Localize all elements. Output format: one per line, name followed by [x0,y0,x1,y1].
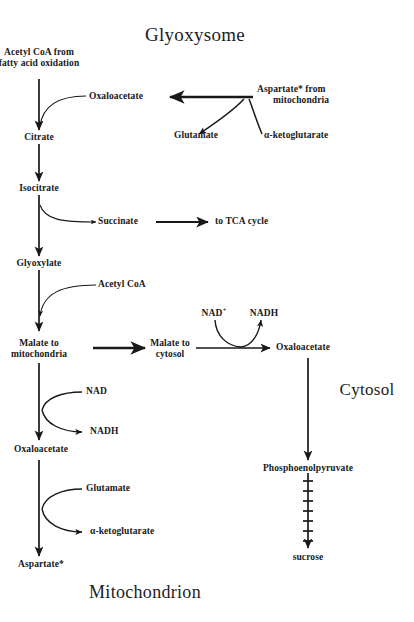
node-succinate: Succinate [98,216,138,227]
node-glyoxylate: Glyoxylate [0,258,85,269]
curve-nadplus-into-oxaloacetate [215,320,241,347]
node-malate-to-mitochondria-line1: Malate to [19,338,59,348]
curve-oxaloacetate-into-citrate [40,96,86,126]
node-citrate: Citrate [0,132,84,143]
curve-nadh-from-malate-oxidation [42,410,82,432]
node-glutamate-mitochondrion: Glutamate [86,483,130,494]
node-oxaloacetate-cytosol: Oxaloacetate [276,342,330,353]
node-ketoglutarate-glyoxysome: α-ketoglutarate [264,130,328,141]
node-malate-to-cytosol-line1: Malate to [150,338,190,348]
curve-acetylcoa-into-malate [40,285,96,316]
node-glutamate-glyoxysome: Glutamate [151,130,241,141]
node-sucrose: sucrose [273,552,343,563]
node-to-tca-cycle: to TCA cycle [215,216,268,227]
curve-isocitrate-to-succinate [40,205,96,222]
node-acetyl-coa-source-line1: Acetyl CoA from [4,47,74,57]
node-nadh-cytosol: NADH [236,308,292,319]
node-ketoglutarate-mitochondrion: α-ketoglutarate [90,526,154,537]
curve-glutamate-into-transamination [42,489,82,509]
node-malate-to-cytosol-line2: cytosol [156,349,185,359]
node-aspartate-mitochondrion: Aspartate* [18,559,64,570]
curve-ketoglutarate-from-transamination [42,509,82,532]
node-nadh-mitochondrion: NADH [90,426,118,437]
node-aspartate-from-mitochondria-line1: Aspartate* from [257,84,326,94]
node-nad-mitochondrion: NAD [86,386,107,397]
node-aspartate-from-mitochondria: Aspartate* from mitochondria [257,84,329,105]
compartment-title-mitochondrion: Mitochondrion [89,582,201,603]
curve-nadh-from-oxaloacetate [241,320,261,347]
node-acetyl-coa-cofactor: Acetyl CoA [98,279,146,290]
node-isocitrate: Isocitrate [0,183,84,194]
curve-nad-into-malate-oxidation [42,392,82,410]
node-aspartate-from-mitochondria-line2: mitochondria [257,95,329,106]
node-phosphoenolpyruvate: Phosphoenolpyruvate [243,463,373,474]
node-malate-to-mitochondria: Malate to mitochondria [0,338,89,359]
node-oxaloacetate-glyoxysome: Oxaloacetate [89,91,143,102]
node-malate-to-cytosol: Malate to cytosol [133,338,207,359]
node-oxaloacetate-mitochondrion: Oxaloacetate [14,444,68,455]
compartment-title-glyoxysome: Glyoxysome [145,24,245,46]
node-nad-plus-text: NAD [202,308,223,318]
node-nad-plus-superscript: + [222,306,226,314]
pathway-diagram-figure: Glyoxysome Cytosol Mitochondrion Acetyl … [0,0,414,622]
curve-to-glutamate-top [199,99,244,134]
node-acetyl-coa-source-line2: fatty acid oxidation [0,58,79,68]
compartment-title-cytosol: Cytosol [339,380,394,400]
node-nad-plus-cytosol: NAD+ [189,308,239,319]
node-acetyl-coa-source: Acetyl CoA from fatty acid oxidation [0,47,104,68]
node-malate-to-mitochondria-line2: mitochondria [11,349,67,359]
